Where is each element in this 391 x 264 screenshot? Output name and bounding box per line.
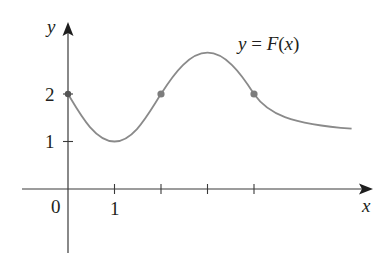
- x-tick-label-1: 1: [110, 198, 120, 219]
- x-axis-label: x: [361, 195, 371, 216]
- curve-label-F: F: [266, 33, 279, 54]
- y-axis-label: y: [45, 16, 56, 37]
- function-curve: [68, 53, 352, 142]
- x-axis: [22, 184, 373, 195]
- point-at-x0: [65, 91, 71, 97]
- curve-label: y = F(x): [236, 33, 299, 55]
- y-axis: [63, 22, 74, 253]
- inflection-point-x4: [250, 90, 257, 97]
- curve-label-eq: =: [246, 33, 266, 54]
- curve-label-close-paren: ): [293, 33, 299, 55]
- origin-label: 0: [51, 196, 61, 217]
- curve-label-y: y: [236, 33, 247, 54]
- function-graph: y x 2 1 0 1 y = F(x): [0, 0, 391, 264]
- inflection-point-x2: [157, 90, 164, 97]
- y-tick-label-1: 1: [45, 131, 55, 152]
- y-tick-label-2: 2: [45, 84, 55, 105]
